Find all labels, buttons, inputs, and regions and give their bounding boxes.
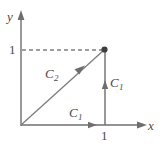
x-axis-tick-label-1: 1 <box>101 129 108 142</box>
y-axis-tick-label-1: 1 <box>9 43 16 56</box>
c2-diagonal-line <box>21 50 104 125</box>
c1-right-direction-arrowhead <box>102 80 108 89</box>
curve-label-c1-right-base: C <box>110 75 119 90</box>
coordinate-diagram-canvas <box>0 0 163 154</box>
curve-label-c1-bottom-subscript: 1 <box>78 112 83 122</box>
curve-label-c1-bottom: C1 <box>69 106 82 122</box>
y-axis-arrowhead <box>18 10 25 20</box>
c2-direction-arrowhead <box>75 66 86 75</box>
curve-label-c1-right-subscript: 1 <box>119 82 124 92</box>
curve-label-c2-base: C <box>45 66 54 81</box>
c1-bottom-direction-arrowhead <box>88 122 97 128</box>
curve-label-c1-right: C1 <box>110 76 123 92</box>
x-axis-label: x <box>148 119 154 132</box>
endpoint-dot <box>101 46 107 52</box>
figure-container: y x 1 1 C2 C1 C1 <box>0 0 163 154</box>
curve-label-c2: C2 <box>45 67 58 83</box>
y-axis-label: y <box>7 10 13 23</box>
curve-label-c2-subscript: 2 <box>54 73 59 83</box>
curve-label-c1-bottom-base: C <box>69 105 78 120</box>
x-axis-arrowhead <box>137 122 147 129</box>
